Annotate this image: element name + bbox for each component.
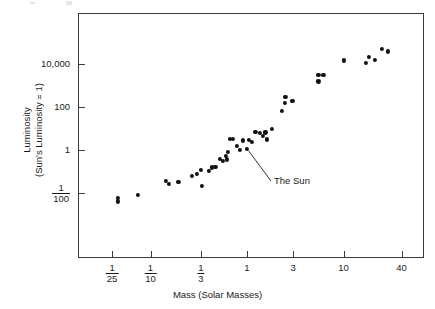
data-point — [316, 73, 320, 77]
plot-area — [78, 13, 424, 258]
scan-artifact — [66, 1, 72, 5]
data-point — [341, 58, 345, 62]
data-point — [263, 130, 267, 134]
x-axis-tick-label: 3 — [290, 263, 295, 273]
data-point — [136, 193, 140, 197]
scan-artifact — [30, 2, 35, 4]
data-point — [231, 137, 235, 141]
x-axis-tick — [112, 251, 113, 258]
data-point — [194, 172, 198, 176]
x-axis-title: Mass (Solar Masses) — [0, 289, 435, 300]
data-point — [282, 101, 286, 105]
y-axis-tick — [78, 193, 85, 194]
x-axis-tick — [293, 251, 294, 258]
data-point — [213, 165, 217, 169]
data-point — [240, 138, 244, 142]
data-point — [316, 79, 320, 83]
data-point — [200, 184, 204, 188]
data-point — [367, 55, 371, 59]
data-point — [226, 150, 230, 154]
data-point — [283, 95, 287, 99]
data-point — [238, 148, 242, 152]
data-point — [386, 49, 390, 53]
data-point — [380, 47, 384, 51]
y-axis-tick — [78, 107, 85, 108]
data-point — [280, 109, 284, 113]
x-axis-tick-label: 110 — [144, 263, 157, 283]
y-axis-tick — [78, 150, 85, 151]
data-point — [245, 147, 249, 151]
data-point — [250, 140, 254, 144]
data-point — [364, 61, 368, 65]
x-axis-tick — [201, 251, 202, 258]
data-point — [116, 199, 120, 203]
mass-luminosity-figure: 10,0001001110012511013131040 The Sun Mas… — [0, 0, 435, 309]
y-axis-title: Luminosity (Sun's Luminosity = 1) — [21, 55, 45, 205]
x-axis-tick-label: 13 — [197, 263, 204, 283]
data-point — [373, 58, 377, 62]
x-axis-tick — [247, 251, 248, 258]
y-axis-tick — [78, 64, 85, 65]
x-axis-tick — [151, 251, 152, 258]
x-axis-tick-label: 125 — [106, 263, 119, 283]
x-axis-tick-label: 10 — [338, 263, 349, 273]
data-point — [207, 169, 211, 173]
data-point — [290, 99, 294, 103]
data-point — [176, 180, 180, 184]
x-axis-tick — [402, 251, 403, 258]
x-axis-tick — [344, 251, 345, 258]
data-point — [321, 72, 325, 76]
y-axis-title-line2: (Sun's Luminosity = 1) — [33, 55, 45, 205]
x-axis-tick-label: 1 — [244, 263, 249, 273]
data-point — [199, 168, 203, 172]
the-sun-annotation-label: The Sun — [274, 176, 310, 186]
x-axis-tick-label: 40 — [396, 263, 407, 273]
data-point — [225, 157, 229, 161]
y-axis-title-line1: Luminosity — [21, 55, 33, 205]
data-point — [270, 127, 274, 131]
data-point — [167, 182, 171, 186]
data-point — [265, 137, 269, 141]
